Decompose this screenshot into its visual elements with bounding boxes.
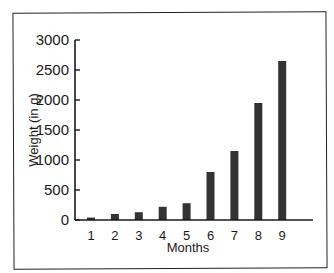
bars [87, 61, 286, 220]
bar-month-3 [135, 212, 143, 220]
bar-chart: 050010001500200025003000 123456789 Weigh… [0, 0, 334, 273]
x-tick-label: 9 [279, 228, 286, 243]
y-axis: 050010001500200025003000 [36, 31, 80, 228]
y-tick-label: 500 [44, 181, 69, 198]
bar-month-5 [183, 203, 191, 220]
x-tick-label: 4 [159, 228, 166, 243]
x-axis-title: Months [167, 240, 210, 255]
x-tick-label: 1 [87, 228, 94, 243]
x-tick-label: 8 [255, 228, 262, 243]
bar-month-7 [230, 151, 238, 220]
y-tick-label: 3000 [36, 31, 69, 48]
y-axis-title: Weight (in g) [26, 93, 41, 166]
x-tick-label: 2 [111, 228, 118, 243]
bar-month-4 [159, 207, 167, 220]
x-tick-label: 3 [135, 228, 142, 243]
y-tick-label: 0 [61, 211, 69, 228]
x-tick-label: 7 [231, 228, 238, 243]
bar-month-6 [207, 172, 215, 220]
bar-month-9 [278, 61, 286, 220]
y-tick-label: 2500 [36, 61, 69, 78]
bar-month-8 [254, 103, 262, 220]
bar-month-2 [111, 214, 119, 220]
